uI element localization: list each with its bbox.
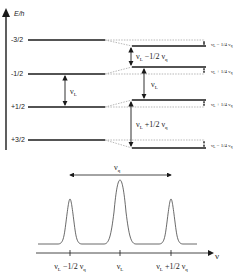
- svg-text:νL + 1/4 νq: νL + 1/4 νq: [211, 102, 233, 108]
- tick-label: νL −1/2 νq: [54, 262, 86, 272]
- tick-label: νL: [117, 262, 124, 272]
- transition-central: νL: [144, 69, 158, 98]
- splitting-label: νq: [114, 163, 121, 173]
- energy-axis-label: E/h: [14, 10, 25, 17]
- shift-labels: νL − 1/4 νq νL + 1/4 νq νL + 1/4 νq νL −…: [211, 42, 233, 149]
- svg-text:νL − 1/4 νq: νL − 1/4 νq: [211, 42, 233, 48]
- svg-text:νL +1/2 νq: νL +1/2 νq: [136, 120, 168, 130]
- svg-text:νL: νL: [70, 87, 77, 97]
- transition-larmor-left: νL: [65, 76, 77, 105]
- axis-arrow-icon: [208, 250, 214, 256]
- axis-arrow-icon: [2, 8, 10, 17]
- spectrum: νq ν νL −1/2 νq νL νL +1/2 νq: [36, 163, 219, 272]
- transition-satellite-low: νL −1/2 νq: [131, 48, 168, 65]
- svg-text:νL −1/2 νq: νL −1/2 νq: [136, 52, 168, 62]
- svg-text:νL + 1/4 νq: νL + 1/4 νq: [211, 69, 233, 75]
- shifted-levels: [132, 46, 206, 148]
- zeeman-levels: [28, 40, 105, 140]
- level-label: -3/2: [11, 36, 23, 43]
- level-label: +1/2: [11, 103, 25, 110]
- spectrum-curve: [38, 180, 197, 244]
- svg-text:νL − 1/4 νq: νL − 1/4 νq: [211, 143, 233, 149]
- transition-satellite-high: νL +1/2 νq: [131, 102, 168, 146]
- svg-text:νL: νL: [151, 80, 158, 90]
- energy-axis: E/h: [2, 8, 25, 150]
- level-labels: -3/2 -1/2 +1/2 +3/2: [11, 36, 25, 143]
- tick-label: νL +1/2 νq: [156, 262, 188, 272]
- level-label: -1/2: [11, 70, 23, 77]
- frequency-axis-label: ν: [215, 251, 219, 261]
- nmr-quadrupole-diagram: E/h -3/2 -1/2 +1/2 +3/2: [0, 0, 246, 276]
- level-label: +3/2: [11, 136, 25, 143]
